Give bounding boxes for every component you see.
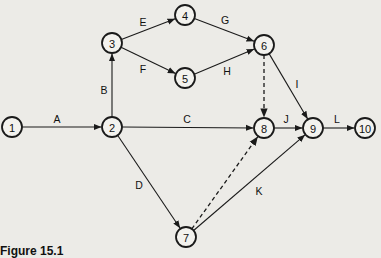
edge-label-h: H — [223, 65, 231, 77]
edge-labels-layer: ABCDEFGHIJKL — [53, 14, 340, 197]
node-10: 10 — [355, 118, 375, 138]
node-7: 7 — [176, 227, 196, 247]
node-label: 2 — [109, 122, 115, 134]
node-4: 4 — [175, 5, 195, 25]
node-label: 8 — [261, 123, 267, 135]
nodes-layer: 12345678910 — [2, 5, 375, 247]
edge-label-j: J — [283, 113, 288, 125]
edge-label-b: B — [100, 84, 107, 96]
edge-label-g: G — [221, 14, 229, 26]
node-label: 5 — [182, 73, 188, 85]
edge-label-f: F — [140, 63, 146, 75]
node-label: 9 — [310, 123, 316, 135]
edge-label-l: L — [334, 113, 340, 125]
edge-i — [269, 54, 308, 119]
node-2: 2 — [102, 117, 122, 137]
node-label: 7 — [183, 232, 189, 244]
edge-f — [121, 47, 176, 73]
edge-label-k: K — [255, 185, 262, 197]
node-6: 6 — [254, 35, 274, 55]
edge-label-c: C — [183, 113, 191, 125]
edge-label-e: E — [139, 16, 146, 28]
node-label: 6 — [261, 40, 267, 52]
node-label: 3 — [109, 38, 115, 50]
node-label: 1 — [9, 122, 15, 134]
edge-label-a: A — [53, 113, 60, 125]
dummy-edge-7-8 — [192, 137, 258, 229]
figure-caption: Figure 15.1 — [0, 244, 63, 258]
edge-c — [122, 127, 254, 128]
node-5: 5 — [175, 68, 195, 88]
edge-label-d: D — [135, 179, 143, 191]
edge-d — [118, 135, 181, 228]
node-label: 4 — [182, 10, 188, 22]
edge-e — [121, 19, 175, 40]
node-9: 9 — [303, 118, 323, 138]
node-1: 1 — [2, 117, 22, 137]
edge-label-i: I — [296, 78, 299, 90]
node-label: 10 — [359, 123, 371, 135]
node-3: 3 — [102, 33, 122, 53]
node-8: 8 — [254, 118, 274, 138]
